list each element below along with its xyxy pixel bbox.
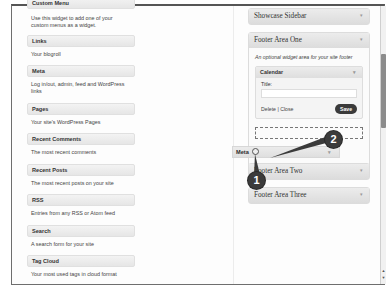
scrollbar-thumb[interactable]: [381, 54, 386, 128]
callout-badge-1: 1: [248, 172, 265, 189]
scroll-down-icon[interactable]: ▼: [381, 275, 386, 281]
vertical-scrollbar[interactable]: ▲ ▼: [380, 6, 386, 284]
scroll-up-icon[interactable]: ▲: [381, 268, 386, 274]
callout-badge-2: 2: [325, 131, 342, 148]
